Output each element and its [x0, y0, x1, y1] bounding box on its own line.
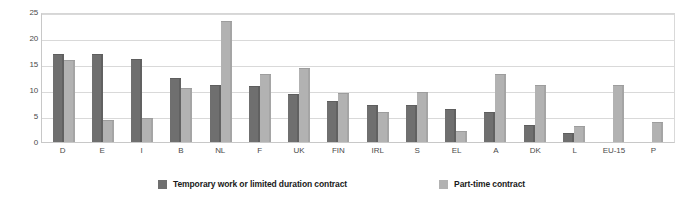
x-axis: DEIBNLFUKFINIRLSELADKLEU-15P: [41, 145, 675, 163]
bar-0[interactable]: [367, 105, 378, 142]
x-tick-label: EU-15: [594, 145, 633, 163]
bar-0[interactable]: [131, 59, 142, 142]
bar-group[interactable]: [554, 14, 593, 142]
x-tick-label: P: [634, 145, 673, 163]
x-tick-label: DK: [516, 145, 555, 163]
legend-item[interactable]: Part-time contract: [439, 179, 525, 189]
bar-0[interactable]: [288, 94, 299, 142]
bar-0[interactable]: [249, 86, 260, 142]
bars-layer: [42, 14, 674, 142]
bar-0[interactable]: [406, 105, 417, 142]
bar-1[interactable]: [181, 88, 192, 142]
legend-swatch-icon: [158, 180, 167, 189]
bar-1[interactable]: [299, 68, 310, 142]
bar-0[interactable]: [445, 109, 456, 142]
bar-group[interactable]: [123, 14, 162, 142]
bar-group[interactable]: [437, 14, 476, 142]
x-tick-label: L: [555, 145, 594, 163]
y-tick-label: 25: [14, 9, 38, 17]
bar-1[interactable]: [338, 93, 349, 142]
x-tick-label: I: [122, 145, 161, 163]
bar-group[interactable]: [633, 14, 672, 142]
x-tick-label: IRL: [358, 145, 397, 163]
x-tick-label: FIN: [319, 145, 358, 163]
legend-item[interactable]: Temporary work or limited duration contr…: [158, 179, 347, 189]
chart-legend: Temporary work or limited duration contr…: [0, 172, 683, 196]
bar-0[interactable]: [484, 112, 495, 142]
y-axis: 0510152025: [14, 0, 38, 165]
bar-1[interactable]: [260, 74, 271, 142]
plot-wrapper: 0510152025 DEIBNLFUKFINIRLSELADKLEU-15P: [0, 0, 683, 165]
bar-1[interactable]: [574, 126, 585, 142]
bar-0[interactable]: [563, 133, 574, 142]
x-tick-label: A: [476, 145, 515, 163]
bar-1[interactable]: [495, 74, 506, 142]
x-tick-label: EL: [437, 145, 476, 163]
bar-1[interactable]: [103, 120, 114, 142]
bar-1[interactable]: [456, 131, 467, 142]
bar-group[interactable]: [201, 14, 240, 142]
bar-1[interactable]: [417, 92, 428, 142]
x-tick-label: D: [43, 145, 82, 163]
x-tick-label: S: [397, 145, 436, 163]
x-tick-label: NL: [201, 145, 240, 163]
plot-area: [41, 13, 675, 143]
bar-1[interactable]: [535, 85, 546, 142]
bar-0[interactable]: [92, 54, 103, 142]
bar-group[interactable]: [358, 14, 397, 142]
legend-swatch-icon: [439, 180, 448, 189]
x-tick-label: B: [161, 145, 200, 163]
bar-1[interactable]: [142, 118, 153, 142]
y-tick-label: 20: [14, 35, 38, 43]
x-tick-label: F: [240, 145, 279, 163]
y-tick-label: 10: [14, 87, 38, 95]
y-tick-label: 0: [14, 139, 38, 147]
bar-chart: 0510152025 DEIBNLFUKFINIRLSELADKLEU-15P …: [0, 0, 683, 205]
bar-0[interactable]: [327, 101, 338, 142]
bar-group[interactable]: [476, 14, 515, 142]
bar-1[interactable]: [613, 85, 624, 142]
bar-0[interactable]: [210, 85, 221, 142]
bar-group[interactable]: [162, 14, 201, 142]
bar-group[interactable]: [515, 14, 554, 142]
bar-1[interactable]: [64, 60, 75, 142]
bar-group[interactable]: [44, 14, 83, 142]
x-tick-label: UK: [279, 145, 318, 163]
bar-0[interactable]: [524, 125, 535, 142]
bar-group[interactable]: [594, 14, 633, 142]
bar-group[interactable]: [83, 14, 122, 142]
legend-label: Temporary work or limited duration contr…: [173, 179, 347, 189]
y-tick-label: 15: [14, 61, 38, 69]
bar-group[interactable]: [319, 14, 358, 142]
bar-0[interactable]: [170, 78, 181, 142]
bar-0[interactable]: [53, 54, 64, 142]
x-tick-label: E: [82, 145, 121, 163]
bar-1[interactable]: [652, 122, 663, 142]
bar-group[interactable]: [280, 14, 319, 142]
bar-group[interactable]: [397, 14, 436, 142]
bar-1[interactable]: [221, 21, 232, 142]
bar-1[interactable]: [378, 112, 389, 142]
bar-group[interactable]: [240, 14, 279, 142]
y-tick-label: 5: [14, 113, 38, 121]
legend-label: Part-time contract: [454, 179, 525, 189]
